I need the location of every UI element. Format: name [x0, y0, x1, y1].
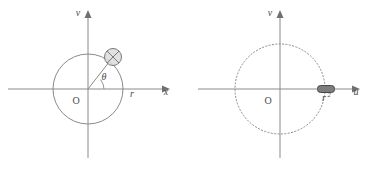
left-x-axis-label: x [163, 86, 169, 97]
right-panel: v u O r 2 [198, 7, 360, 158]
left-y-axis-arrowhead [85, 10, 92, 18]
left-angle-label: θ [102, 71, 107, 82]
right-u-axis-label: u [354, 86, 359, 97]
right-radius-label: r [322, 92, 326, 103]
left-panel: v x O r θ [8, 7, 170, 158]
right-v-axis-label: v [268, 7, 273, 18]
left-y-axis-label: v [76, 7, 81, 18]
left-origin-label: O [72, 95, 79, 106]
right-v-axis-arrowhead [277, 10, 284, 18]
particle-marker [105, 49, 122, 66]
figure-svg: v x O r θ v u O r 2 [0, 0, 371, 178]
velocity-blob-marker [318, 86, 335, 93]
figure-container: v x O r θ v u O r 2 [0, 0, 371, 178]
left-radius-label: r [130, 88, 134, 99]
right-origin-label: O [264, 95, 271, 106]
